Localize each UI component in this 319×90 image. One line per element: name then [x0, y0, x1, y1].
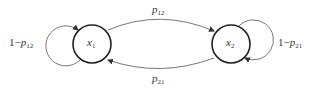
edge-x1-x2-label: p12 [152, 3, 165, 17]
self-loop-x1-label: 1−p12 [9, 36, 33, 50]
node-x1-label: x1 [87, 36, 95, 50]
edge-x1-x2 [108, 19, 214, 31]
node-x2-label: x2 [226, 36, 234, 50]
edge-x2-x1-label: p21 [152, 72, 165, 86]
self-loop-x2-label: 1−p21 [278, 36, 302, 50]
edge-x2-x1 [108, 58, 214, 69]
